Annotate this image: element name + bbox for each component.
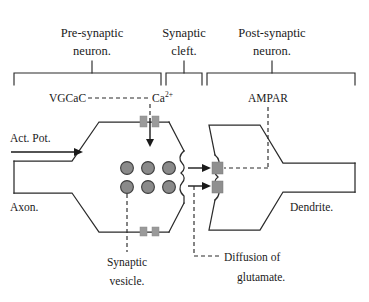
calcium-channel [152,227,159,236]
synaptic-vesicle-label-line1: Synaptic [107,256,147,269]
synaptic-vesicle [163,162,176,175]
glutamate-release-arrowhead [202,182,211,190]
region-title-pre-synaptic-line1: Pre-synaptic [61,26,124,40]
bracket-synaptic-cleft [166,61,202,85]
synaptic-vesicle [163,181,176,194]
glutamate-release-arrow-upper [188,164,211,172]
glutamate-release-arrow-lower [188,182,211,190]
vgcac-label: VGCaC [49,92,86,104]
bracket-post-synaptic [207,61,355,85]
glutamate-diffusion-label-line1: Diffusion of [224,251,280,263]
region-title-synaptic-cleft-line1: Synaptic [162,26,206,40]
action-potential-label: Act. Pot. [10,132,51,144]
synaptic-vesicle [142,162,155,175]
calcium-ion-label: Ca [152,92,165,104]
region-title-pre-synaptic-line2: neuron. [73,44,111,58]
calcium-influx-arrowhead [146,139,154,147]
calcium-ion-charge: 2+ [165,90,173,99]
region-title-synaptic-cleft-line2: cleft. [171,44,196,58]
region-title-post-synaptic: Post-synaptic neuron. [238,26,306,58]
axon-label: Axon. [10,201,39,213]
ampar-label: AMPAR [248,92,288,104]
bracket-pre-synaptic [14,61,161,85]
calcium-channel [140,116,147,127]
dendrite-label: Dendrite. [290,201,333,213]
action-potential-arrowhead [74,148,83,156]
post-synaptic-neuron-outline [209,125,355,230]
glutamate-release-arrowhead [202,164,211,172]
ampa-receptor [212,162,223,174]
ampa-receptor [212,181,223,193]
synaptic-vesicle [142,181,155,194]
action-potential-arrow [11,148,83,156]
calcium-channel [152,116,159,127]
synaptic-vesicle-group [121,162,176,194]
glutamate-diffusion-label-line2: glutamate. [237,271,285,284]
synaptic-vesicle [121,162,134,175]
active-zone-membrane [180,151,184,203]
region-title-pre-synaptic: Pre-synaptic neuron. [61,26,124,58]
synaptic-vesicle [121,181,134,194]
synapse-diagram: Pre-synaptic neuron. Synaptic cleft. Pos… [0,0,369,302]
region-title-synaptic-cleft: Synaptic cleft. [162,26,206,58]
calcium-channel [140,227,147,236]
region-title-post-synaptic-line1: Post-synaptic [238,26,306,40]
synaptic-vesicle-label-line2: vesicle. [110,275,145,287]
region-title-post-synaptic-line2: neuron. [253,44,291,58]
synapse-figure-canvas: Pre-synaptic neuron. Synaptic cleft. Pos… [0,0,369,302]
